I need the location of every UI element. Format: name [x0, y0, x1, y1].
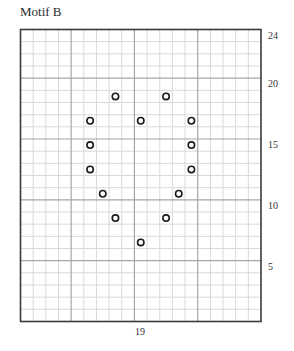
row-number-label: 10: [268, 200, 278, 212]
stitch-circle-symbol: [138, 118, 144, 124]
stitch-circle-symbol: [188, 118, 194, 124]
stitch-circle-symbol: [112, 93, 118, 99]
stitch-circle-symbol: [163, 93, 169, 99]
stitch-circle-symbol: [188, 166, 194, 172]
stitch-circle-symbol: [163, 215, 169, 221]
stitch-circle-symbol: [87, 142, 93, 148]
stitch-circle-symbol: [188, 142, 194, 148]
row-number-label: 20: [268, 78, 278, 90]
stitch-circle-symbol: [138, 239, 144, 245]
stitch-circle-symbol: [176, 191, 182, 197]
stitch-circle-symbol: [100, 191, 106, 197]
stitch-circle-symbol: [87, 166, 93, 172]
knitting-chart-grid: [0, 0, 294, 351]
column-count-label: 19: [125, 326, 155, 338]
row-number-label: 15: [268, 139, 278, 151]
stitch-circle-symbol: [112, 215, 118, 221]
row-number-label: 5: [268, 261, 273, 273]
row-number-label: 24: [268, 30, 278, 42]
stitch-circle-symbol: [87, 118, 93, 124]
